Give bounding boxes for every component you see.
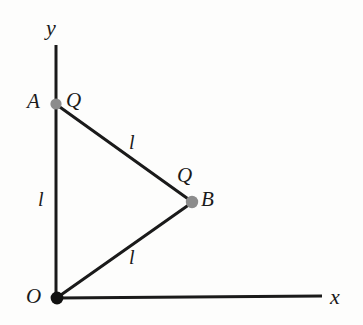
- origin-label: O: [26, 286, 41, 307]
- point-label-b: B: [201, 189, 214, 210]
- x-axis-label: x: [330, 286, 340, 308]
- charge-label-a: Q: [66, 90, 81, 111]
- x-axis-line: [57, 296, 322, 298]
- point-marker-B: [186, 196, 198, 208]
- charge-label-b: Q: [177, 165, 192, 186]
- point-marker-A: [50, 98, 61, 109]
- geometry-figure: y x A Q Q B O l l l: [0, 0, 363, 325]
- point-marker-O: [51, 292, 64, 305]
- length-label-oa: l: [38, 189, 44, 209]
- segment-AB: [57, 105, 191, 201]
- point-label-a: A: [27, 91, 40, 112]
- y-axis-label: y: [46, 17, 56, 39]
- length-label-ob: l: [129, 247, 135, 267]
- length-label-ab: l: [129, 132, 135, 152]
- segment-OB: [58, 204, 190, 297]
